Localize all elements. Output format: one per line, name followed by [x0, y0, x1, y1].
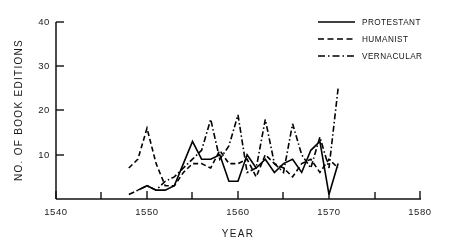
series-line-humanist	[129, 128, 338, 186]
y-tick-label-40: 40	[38, 16, 50, 27]
x-axis-ticks	[56, 191, 420, 199]
chart-legend: PROTESTANT HUMANIST VERNACULAR	[318, 18, 422, 61]
x-tick-label-1540: 1540	[44, 206, 68, 217]
y-axis-ticks	[56, 22, 64, 155]
line-chart-canvas: 40 30 20 10 1540 1550 1560 1570 1580 YEA…	[0, 0, 458, 251]
series-line-vernacular	[129, 88, 338, 194]
x-tick-label-1570: 1570	[317, 206, 341, 217]
x-tick-label-1560: 1560	[226, 206, 250, 217]
x-tick-label-1580: 1580	[408, 206, 432, 217]
x-axis-tick-labels: 1540 1550 1560 1570 1580	[44, 206, 432, 217]
x-axis-title: YEAR	[222, 228, 254, 239]
legend-label-humanist: HUMANIST	[362, 35, 408, 44]
series-line-protestant	[138, 141, 338, 194]
x-tick-label-1550: 1550	[135, 206, 159, 217]
legend-label-protestant: PROTESTANT	[362, 18, 421, 27]
y-tick-label-30: 30	[38, 60, 50, 71]
y-axis-title: NO. OF BOOK EDITIONS	[13, 39, 24, 181]
legend-label-vernacular: VERNACULAR	[362, 52, 422, 61]
y-tick-label-20: 20	[38, 104, 50, 115]
chart-figure: 40 30 20 10 1540 1550 1560 1570 1580 YEA…	[0, 0, 458, 251]
y-tick-label-10: 10	[38, 149, 50, 160]
data-series-group	[129, 88, 338, 194]
y-axis-tick-labels: 40 30 20 10	[38, 16, 50, 160]
